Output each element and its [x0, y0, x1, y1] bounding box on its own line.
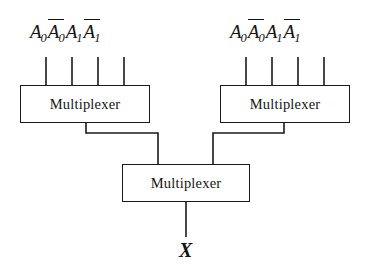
signal-label-left-0: A0: [30, 22, 48, 41]
input-labels-right: A0 A0 A1 A1: [230, 22, 301, 41]
mux-bottom[interactable]: Multiplexer: [122, 164, 250, 202]
signal-label-right-1: A0: [248, 22, 266, 41]
mux-bottom-label: Multiplexer: [151, 175, 222, 192]
mux-left[interactable]: Multiplexer: [20, 85, 150, 123]
signal-label-right-2: A1: [266, 22, 284, 41]
signal-label-right-0: A0: [230, 22, 248, 41]
input-labels-left: A0 A0 A1 A1: [30, 22, 101, 41]
signal-label-right-3: A1: [284, 22, 302, 41]
wire-right-to-bottom: [213, 122, 284, 165]
signal-label-left-1: A0: [48, 22, 66, 41]
signal-label-left-2: A1: [66, 22, 84, 41]
mux-left-label: Multiplexer: [50, 96, 121, 113]
signal-label-left-3: A1: [84, 22, 102, 41]
multiplexer-tree-figure: Multiplexer Multiplexer Multiplexer A0 A…: [0, 0, 369, 276]
output-label-x: X: [179, 240, 192, 260]
mux-right-label: Multiplexer: [250, 96, 321, 113]
mux-right[interactable]: Multiplexer: [220, 85, 350, 123]
wire-left-to-bottom: [86, 122, 158, 165]
